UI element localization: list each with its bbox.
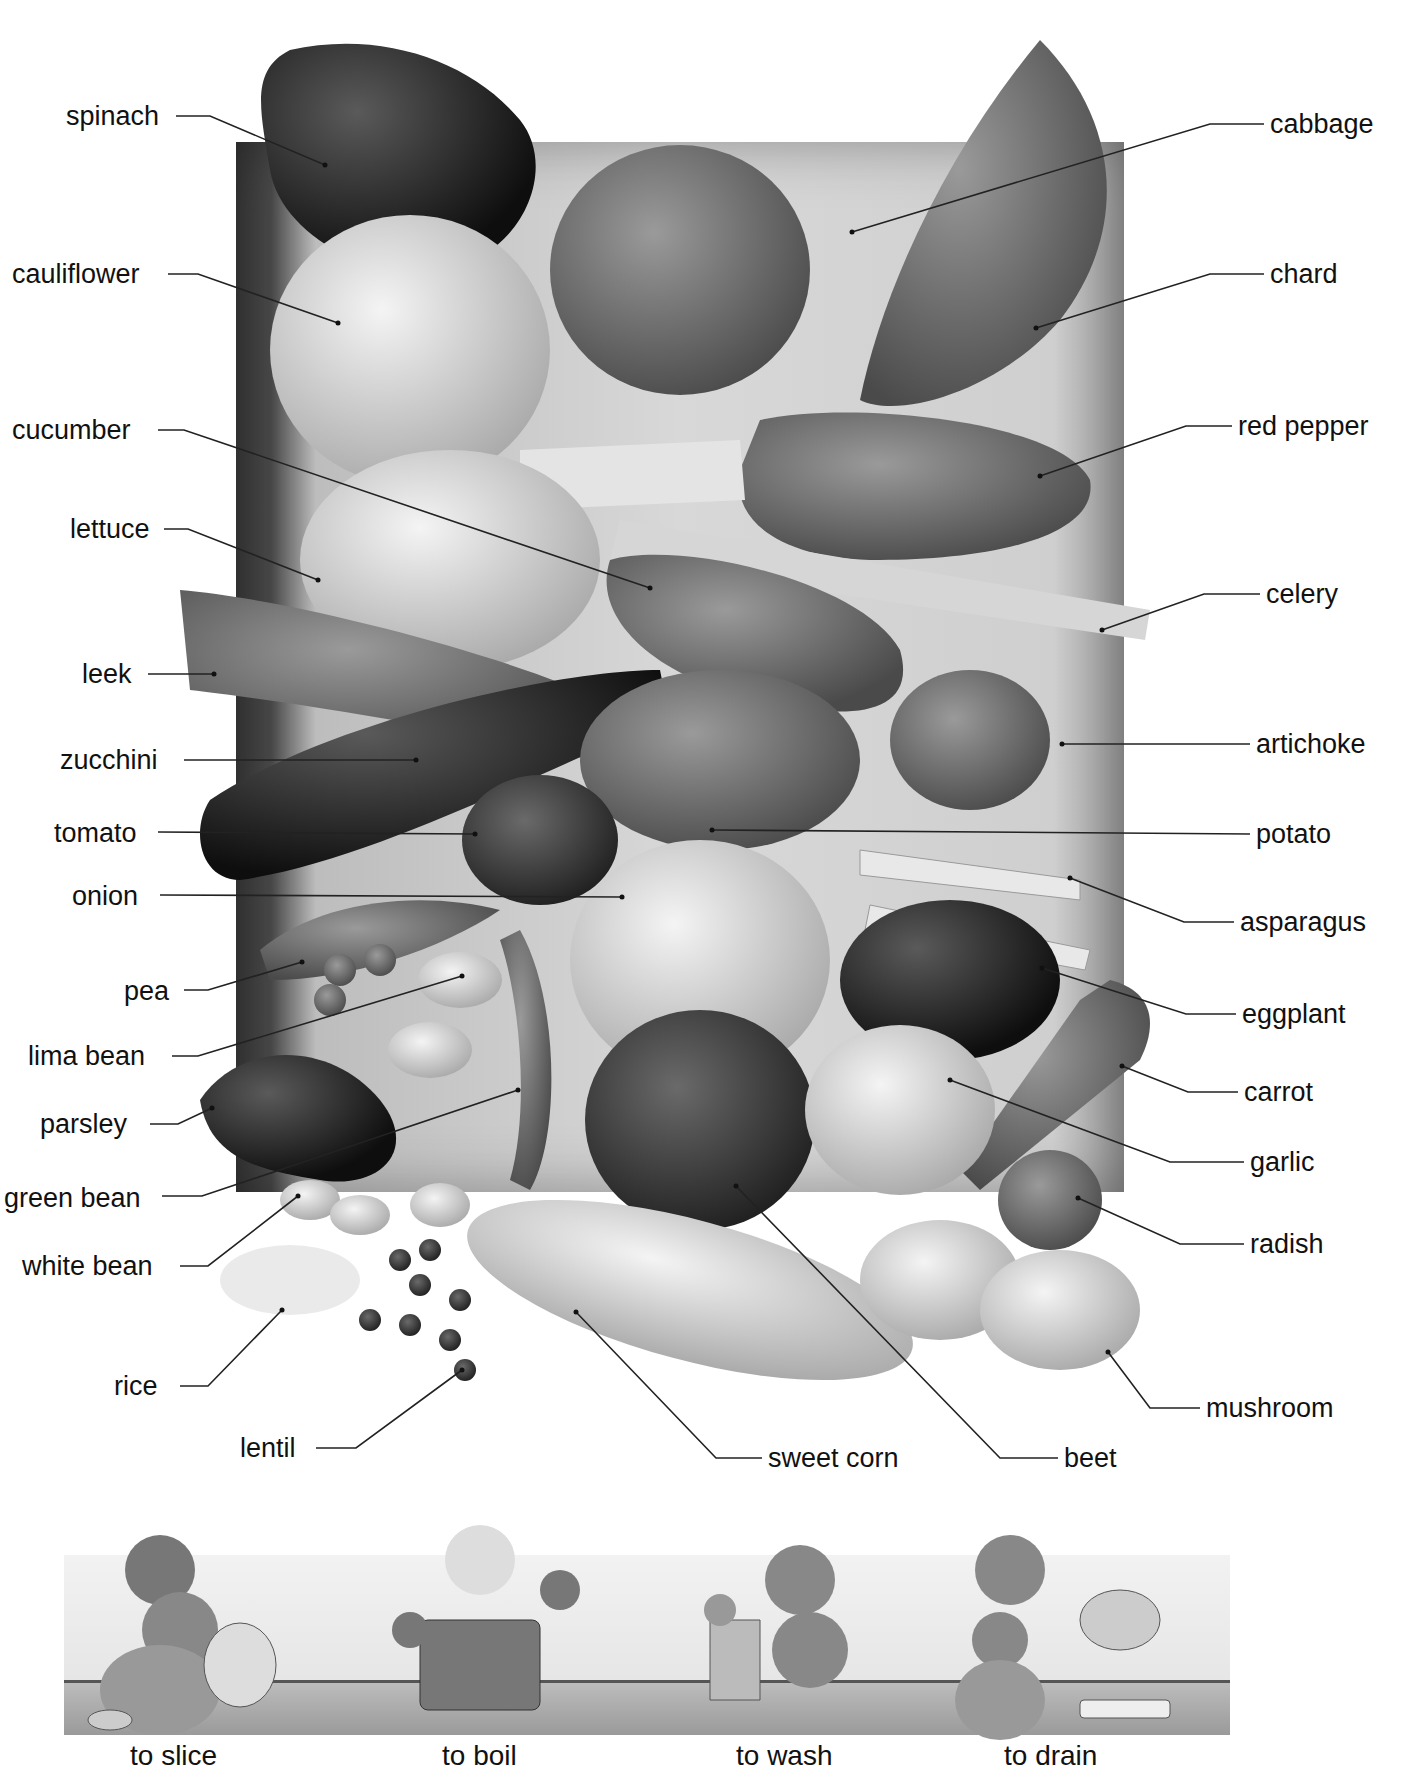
verb-to-wash: to wash — [736, 1740, 833, 1772]
verb-to-boil: to boil — [442, 1740, 517, 1772]
slicing-character — [88, 1535, 276, 1735]
verb-to-drain: to drain — [1004, 1740, 1097, 1772]
verb-to-slice: to slice — [130, 1740, 217, 1772]
vocabulary-diagram: spinach cauliflower cucumber lettuce lee… — [0, 0, 1421, 1788]
washing-character — [704, 1545, 848, 1700]
cooking-characters — [0, 0, 1421, 1788]
draining-character — [955, 1535, 1170, 1740]
boiling-character — [392, 1525, 580, 1710]
